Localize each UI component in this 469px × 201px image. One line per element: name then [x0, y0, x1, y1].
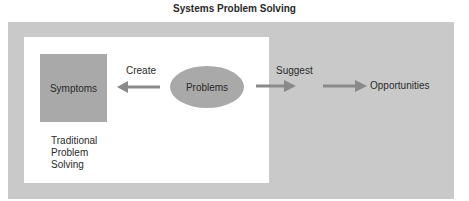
arrows — [0, 0, 469, 201]
suggest-arrow-icon — [256, 80, 296, 92]
create-arrow-icon — [117, 81, 160, 93]
opportunities-arrow-icon — [323, 80, 367, 92]
